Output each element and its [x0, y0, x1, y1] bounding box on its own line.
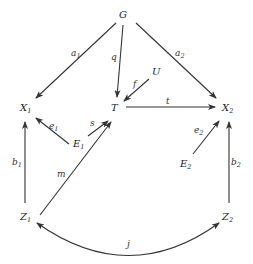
- path-diagram: G U X1 T X2 E1 E2 Z1 Z2 a1 q a2 f t e1 s…: [0, 0, 253, 264]
- edge-q: [117, 25, 123, 97]
- edge-a2: [136, 23, 216, 98]
- node-U: U: [152, 66, 161, 77]
- node-T: T: [111, 102, 119, 113]
- node-E2: E2: [179, 158, 191, 171]
- label-m: m: [57, 169, 66, 179]
- label-q: q: [111, 52, 117, 62]
- label-t: t: [166, 96, 170, 106]
- label-e2: e2: [194, 125, 203, 137]
- node-Z1: Z1: [19, 211, 31, 224]
- edge-a1: [36, 23, 116, 98]
- label-b2: b2: [231, 157, 241, 169]
- label-s: s: [90, 118, 95, 128]
- node-Z2: Z2: [221, 211, 233, 224]
- node-X1: X1: [19, 102, 31, 115]
- node-X2: X2: [221, 102, 233, 115]
- edge-f: [124, 79, 149, 101]
- node-E1: E1: [72, 138, 84, 151]
- label-a2: a2: [175, 48, 185, 60]
- label-a1: a1: [71, 48, 81, 60]
- node-G: G: [119, 9, 127, 20]
- label-f: f: [132, 79, 138, 89]
- label-j: j: [125, 239, 130, 249]
- edge-m: [40, 122, 111, 215]
- label-e1: e1: [49, 121, 58, 133]
- label-b1: b1: [12, 157, 22, 169]
